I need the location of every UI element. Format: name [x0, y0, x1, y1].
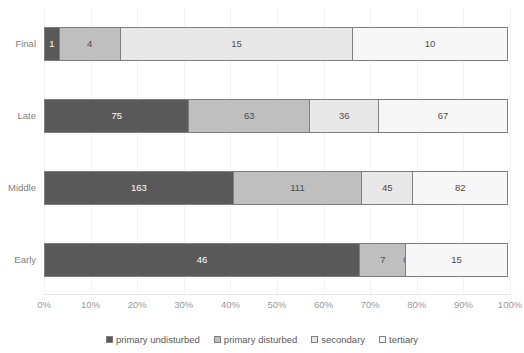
bar-segment-value-label: 10	[425, 39, 436, 49]
legend-item-secondary[interactable]: secondary	[311, 334, 365, 345]
bar-segment-late-primary-undisturbed[interactable]: 75	[44, 99, 189, 133]
legend-swatch-icon	[214, 336, 221, 343]
x-tick-label-10%: 10%	[81, 299, 100, 310]
x-tick-label-20%: 20%	[128, 299, 147, 310]
bar-segment-value-label: 1	[49, 39, 54, 49]
bar-segment-value-label: 45	[382, 183, 393, 193]
x-tick-label-90%: 90%	[454, 299, 473, 310]
legend-swatch-icon	[106, 336, 113, 343]
bar-segment-value-label: 15	[451, 255, 462, 265]
x-tick-label-50%: 50%	[267, 299, 286, 310]
legend-item-tertiary[interactable]: tertiary	[379, 334, 418, 345]
bar-segment-middle-primary-disturbed[interactable]: 111	[233, 171, 362, 205]
x-tick-label-80%: 80%	[407, 299, 426, 310]
bar-segment-value-label: 46	[197, 255, 208, 265]
bar-segment-late-secondary[interactable]: 36	[309, 99, 379, 133]
x-axis-ticks: 0%10%20%30%40%50%60%70%80%90%100%	[44, 299, 511, 313]
x-tick-label-0%: 0%	[37, 299, 51, 310]
bar-segment-final-primary-disturbed[interactable]: 4	[59, 27, 121, 61]
bar-segment-late-primary-disturbed[interactable]: 63	[188, 99, 310, 133]
bar-segment-value-label: 67	[438, 111, 449, 121]
x-tick-label-30%: 30%	[174, 299, 193, 310]
legend-swatch-icon	[379, 336, 386, 343]
bar-row-middle[interactable]: 1631114582	[44, 171, 511, 205]
x-tick-label-100%: 100%	[498, 299, 522, 310]
bar-segment-value-label: 75	[111, 111, 122, 121]
legend-label: tertiary	[389, 334, 418, 345]
bar-segment-middle-secondary[interactable]: 45	[361, 171, 413, 205]
bar-segment-final-primary-undisturbed[interactable]: 1	[44, 27, 60, 61]
category-label-final: Final	[15, 27, 36, 61]
bar-segment-value-label: 111	[290, 183, 304, 193]
category-label-early: Early	[14, 243, 36, 277]
bar-segment-late-tertiary[interactable]: 67	[378, 99, 508, 133]
bar-row-late[interactable]: 75633667	[44, 99, 511, 133]
legend-item-primary-disturbed[interactable]: primary disturbed	[214, 334, 297, 345]
legend-swatch-icon	[311, 336, 318, 343]
bar-segment-value-label: 4	[87, 39, 92, 49]
bar-segment-early-tertiary[interactable]: 15	[405, 243, 508, 277]
legend-label: primary undisturbed	[116, 334, 200, 345]
bar-segment-early-primary-disturbed[interactable]: 7	[359, 243, 407, 277]
category-label-middle: Middle	[8, 171, 36, 205]
bar-segment-value-label: 7	[380, 255, 385, 265]
bar-segment-value-label: 63	[244, 111, 255, 121]
bar-segment-value-label: 82	[455, 183, 466, 193]
bar-row-early[interactable]: 467015	[44, 243, 511, 277]
x-tick-label-60%: 60%	[314, 299, 333, 310]
x-tick-label-70%: 70%	[361, 299, 380, 310]
plot-area: 141510756336671631114582467015	[44, 8, 511, 295]
bar-row-final[interactable]: 141510	[44, 27, 511, 61]
bar-segment-value-label: 15	[231, 39, 242, 49]
chart-legend: primary undisturbedprimary disturbedseco…	[0, 330, 524, 348]
bar-segment-final-secondary[interactable]: 15	[120, 27, 354, 61]
stacked-bar-chart: FinalLateMiddleEarly 1415107563366716311…	[0, 0, 524, 353]
x-tick-label-40%: 40%	[221, 299, 240, 310]
category-axis: FinalLateMiddleEarly	[0, 8, 40, 295]
bar-segment-middle-tertiary[interactable]: 82	[412, 171, 508, 205]
legend-item-primary-undisturbed[interactable]: primary undisturbed	[106, 334, 200, 345]
bar-segment-value-label: 163	[131, 183, 147, 193]
bar-segment-value-label: 36	[339, 111, 350, 121]
bar-segment-final-tertiary[interactable]: 10	[352, 27, 508, 61]
category-label-late: Late	[18, 99, 37, 133]
bar-segment-middle-primary-undisturbed[interactable]: 163	[44, 171, 234, 205]
legend-label: primary disturbed	[224, 334, 297, 345]
bar-segment-early-primary-undisturbed[interactable]: 46	[44, 243, 360, 277]
legend-label: secondary	[321, 334, 365, 345]
